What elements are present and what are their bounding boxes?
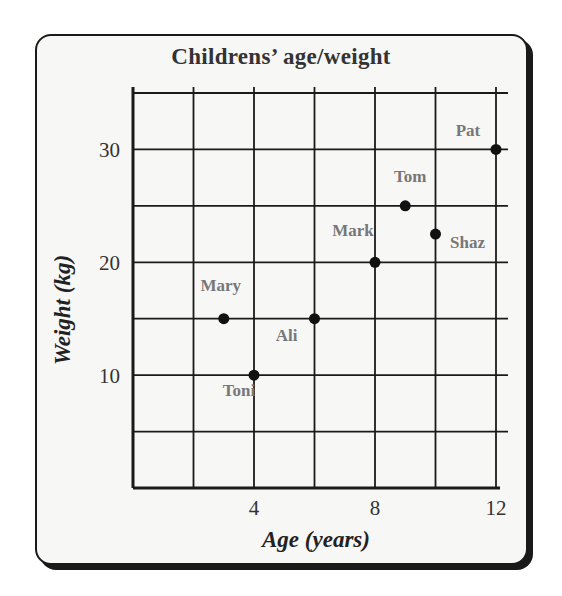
data-point [309,313,320,324]
tick-labels: 4812102030 [99,138,507,520]
data-point [370,257,381,268]
point-label: Tom [394,167,426,186]
point-label: Ali [276,326,298,345]
y-tick-label: 30 [99,138,120,162]
point-label: Pat [456,121,481,140]
point-label: Toni [223,381,256,400]
point-label: Mark [332,221,374,240]
grid-lines [133,87,508,488]
point-label: Shaz [450,233,485,252]
data-points: ToniMaryAliMarkShazTomPat [200,121,501,400]
data-point [430,229,441,240]
x-tick-label: 8 [370,496,381,520]
y-tick-label: 10 [99,364,120,388]
y-tick-label: 20 [99,251,120,275]
data-point [491,144,502,155]
data-point [249,370,260,381]
point-label: Mary [200,276,241,295]
data-point [400,200,411,211]
x-tick-label: 4 [249,496,260,520]
data-point [218,313,229,324]
plot-area: 4812102030 ToniMaryAliMarkShazTomPat [0,0,562,596]
x-axis-label: Age (years) [0,527,562,553]
x-tick-label: 12 [486,496,507,520]
y-axis-label: Weight (kg) [50,255,76,365]
